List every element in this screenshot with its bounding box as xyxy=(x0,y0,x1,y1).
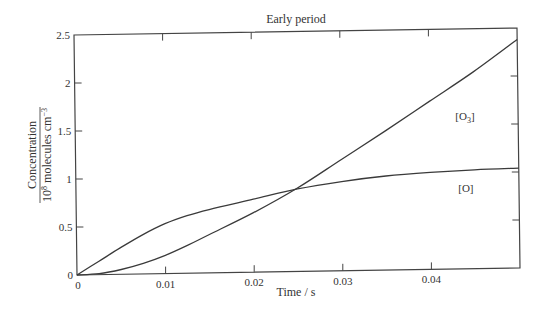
x-axis-ticks: 00.010.020.030.04 xyxy=(75,29,441,291)
y-axis-label-denominator: 108 molecules cm−3 xyxy=(40,108,54,202)
y-axis-label: Concentration 108 molecules cm−3 xyxy=(25,107,54,203)
x-tick-label: 0 xyxy=(75,279,81,291)
series-line-o3 xyxy=(77,40,517,275)
y-axis-ticks: 00.511.522.5 xyxy=(56,29,519,281)
data-series xyxy=(77,40,519,275)
series-label: [O3] xyxy=(455,110,474,125)
plot-frame xyxy=(74,28,520,275)
y-tick-label: 0 xyxy=(68,269,74,281)
series-labels: [O3][O] xyxy=(455,110,474,194)
y-axis-label-numerator: Concentration xyxy=(25,121,39,189)
concentration-chart: Early period 00.010.020.030.04 00.511.52… xyxy=(0,0,545,317)
y-tick-label: 1 xyxy=(66,173,72,185)
x-tick-label: 0.02 xyxy=(245,276,264,288)
chart-title: Early period xyxy=(266,12,326,26)
x-tick-label: 0.03 xyxy=(333,275,353,287)
y-tick-label: 0.5 xyxy=(59,221,73,233)
y-tick-label: 1.5 xyxy=(57,125,71,137)
x-tick-label: 0.01 xyxy=(156,278,175,290)
x-tick-label: 0.04 xyxy=(422,273,442,285)
series-line-o xyxy=(77,168,519,275)
y-tick-label: 2 xyxy=(65,77,71,89)
y-tick-label: 2.5 xyxy=(56,29,70,41)
x-axis-label: Time / s xyxy=(277,285,316,299)
series-label: [O] xyxy=(458,182,473,194)
